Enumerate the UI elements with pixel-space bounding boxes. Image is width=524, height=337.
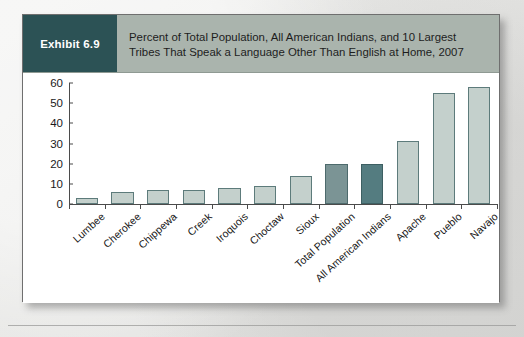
x-axis-tick-mark bbox=[461, 204, 462, 209]
bar-slot bbox=[69, 83, 105, 204]
x-axis-ticks bbox=[69, 204, 497, 209]
y-axis-tick-label: 60 bbox=[37, 77, 63, 89]
page-horizontal-rule bbox=[8, 325, 516, 326]
x-axis-tick-mark bbox=[247, 204, 248, 209]
x-axis-label-pueblo: Pueblo bbox=[431, 210, 464, 241]
x-axis-tick-mark bbox=[140, 204, 141, 209]
bar-sioux[interactable] bbox=[290, 176, 312, 204]
x-axis-label-choctaw: Choctaw bbox=[247, 210, 286, 247]
bar-iroquois[interactable] bbox=[218, 188, 240, 204]
bar-all-american-indians[interactable] bbox=[361, 164, 383, 204]
x-axis-tick-mark bbox=[69, 204, 70, 209]
bar-slot bbox=[105, 83, 141, 204]
exhibit-card: Exhibit 6.9 Percent of Total Population,… bbox=[22, 14, 500, 302]
bar-navajo[interactable] bbox=[468, 87, 490, 204]
bar-slot bbox=[247, 83, 283, 204]
y-axis-tick-label: 20 bbox=[37, 158, 63, 170]
bar-choctaw[interactable] bbox=[254, 186, 276, 204]
y-axis-tick-label: 50 bbox=[37, 97, 63, 109]
x-axis-label-apache: Apache bbox=[393, 210, 428, 243]
bar-slot bbox=[283, 83, 319, 204]
bar-cherokee[interactable] bbox=[111, 192, 133, 204]
bar-slot bbox=[140, 83, 176, 204]
bar-chippewa[interactable] bbox=[147, 190, 169, 204]
y-axis-tick-label: 30 bbox=[37, 138, 63, 150]
x-axis-label-navajo: Navajo bbox=[467, 210, 500, 241]
x-axis-tick-mark bbox=[426, 204, 427, 209]
bar-pueblo[interactable] bbox=[433, 93, 455, 204]
y-axis-tick-label: 0 bbox=[37, 198, 63, 210]
x-axis-tick-mark bbox=[283, 204, 284, 209]
bar-creek[interactable] bbox=[183, 190, 205, 204]
x-axis-label-sioux: Sioux bbox=[293, 210, 321, 237]
x-axis-tick-mark bbox=[497, 204, 498, 209]
bar-total-population[interactable] bbox=[325, 164, 347, 204]
x-axis-label-cherokee: Cherokee bbox=[101, 210, 143, 250]
y-axis-tick-label: 10 bbox=[37, 178, 63, 190]
bar-slot bbox=[319, 83, 355, 204]
chart-plot-area: 0102030405060 LumbeeCherokeeChippewaCree… bbox=[23, 73, 499, 303]
bar-slot bbox=[461, 83, 497, 204]
bar-series bbox=[69, 83, 497, 204]
bar-slot bbox=[390, 83, 426, 204]
exhibit-title: Percent of Total Population, All America… bbox=[117, 15, 499, 72]
x-axis-tick-mark bbox=[176, 204, 177, 209]
x-axis-tick-mark bbox=[354, 204, 355, 209]
x-axis-tick-mark bbox=[105, 204, 106, 209]
bar-apache[interactable] bbox=[397, 141, 419, 204]
y-axis-tick-label: 40 bbox=[37, 117, 63, 129]
x-axis-tick-mark bbox=[319, 204, 320, 209]
bar-slot bbox=[426, 83, 462, 204]
bar-slot bbox=[176, 83, 212, 204]
x-axis-label-creek: Creek bbox=[185, 210, 214, 238]
x-axis-tick-mark bbox=[212, 204, 213, 209]
x-axis-labels: LumbeeCherokeeChippewaCreekIroquoisChoct… bbox=[69, 210, 497, 300]
exhibit-badge: Exhibit 6.9 bbox=[23, 15, 117, 72]
x-axis-tick-mark bbox=[390, 204, 391, 209]
bar-slot bbox=[354, 83, 390, 204]
exhibit-header: Exhibit 6.9 Percent of Total Population,… bbox=[23, 15, 499, 73]
bar-slot bbox=[212, 83, 248, 204]
x-axis-label-iroquois: Iroquois bbox=[214, 210, 250, 244]
x-axis-label-chippewa: Chippewa bbox=[135, 210, 178, 251]
